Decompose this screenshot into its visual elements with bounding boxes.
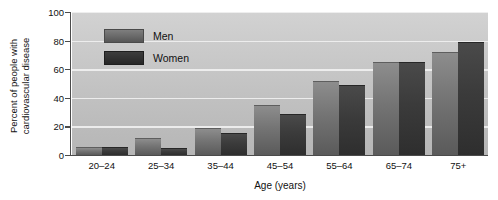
y-axis-tick-label: 60	[36, 64, 64, 75]
x-axis-line	[70, 155, 488, 156]
legend-label-women: Women	[153, 52, 189, 64]
bar-men	[373, 62, 399, 155]
bar-women	[221, 133, 247, 155]
x-axis-tick-labels: 20–2425–3435–4445–5455–6465–7475+	[72, 160, 488, 176]
y-axis-tick-label: 100	[36, 7, 64, 18]
y-axis-tick-label: 0	[36, 150, 64, 161]
legend-swatch-men-icon	[104, 29, 144, 43]
gridline	[72, 98, 488, 99]
legend-label-men: Men	[153, 30, 173, 42]
bar-men	[254, 105, 280, 155]
y-axis-title-line2: cardiovascular disease	[19, 38, 31, 135]
chart-legend: Men Women	[104, 26, 254, 70]
y-axis-tick-label: 40	[36, 92, 64, 103]
y-axis-tick-labels: 020406080100	[36, 0, 64, 200]
y-axis-tick-label: 20	[36, 121, 64, 132]
bar-women	[102, 147, 128, 155]
y-axis-tick-label: 80	[36, 35, 64, 46]
x-axis-tick-label: 20–24	[88, 160, 114, 171]
gridline	[72, 12, 488, 13]
y-axis-title: Percent of people with cardiovascular di…	[2, 6, 36, 166]
legend-entry-women: Women	[104, 48, 254, 67]
bar-men	[195, 128, 221, 155]
bar-women	[161, 148, 187, 155]
legend-swatch-women-icon	[104, 51, 144, 65]
x-axis-tick-label: 35–44	[207, 160, 233, 171]
bar-women	[280, 114, 306, 155]
bar-men	[432, 52, 458, 155]
x-axis-tick-label: 65–74	[386, 160, 412, 171]
bar-men	[135, 138, 161, 155]
x-axis-tick-label: 25–34	[148, 160, 174, 171]
bar-women	[399, 62, 425, 155]
legend-entry-men: Men	[104, 26, 254, 45]
y-axis-title-line1: Percent of people with	[8, 39, 19, 133]
bar-men	[313, 81, 339, 155]
x-axis-title: Age (years)	[72, 180, 488, 191]
x-axis-tick-label: 55–64	[326, 160, 352, 171]
x-axis-tick-label: 75+	[450, 160, 466, 171]
chart-figure: Percent of people with cardiovascular di…	[0, 0, 498, 200]
bar-men	[76, 147, 102, 155]
x-axis-tick-label: 45–54	[267, 160, 293, 171]
bar-women	[339, 85, 365, 155]
bar-women	[458, 42, 484, 155]
